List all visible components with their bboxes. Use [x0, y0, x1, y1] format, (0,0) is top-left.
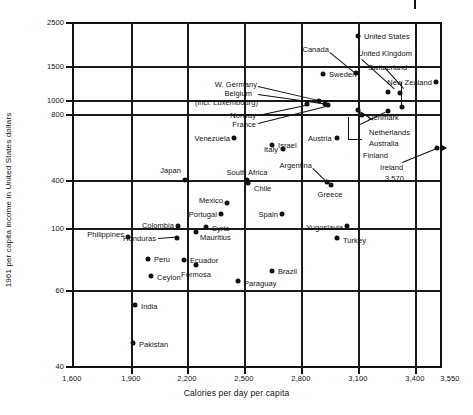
point-spain: [280, 212, 285, 217]
tick-y-800: [66, 114, 72, 116]
xtick-label-3100: 3,100: [348, 374, 367, 383]
point-new-zealand: [434, 80, 439, 85]
gridline-x-2800: [301, 22, 303, 368]
label-honduras: Honduras: [123, 234, 156, 243]
label-peru: Peru: [154, 255, 170, 264]
label-belgium-note: (incl. Luxembourg): [195, 98, 258, 107]
leader-finland: [349, 139, 362, 140]
label-netherlands: Netherlands: [369, 128, 410, 137]
label-mexico: Mexico: [199, 196, 223, 205]
label-norway: Norway: [230, 111, 256, 120]
point-greece: [329, 183, 334, 188]
label-pakistan: Pakistan: [139, 340, 168, 349]
tick-y-100: [66, 228, 72, 230]
ytick-label-1500: 1500: [38, 62, 64, 71]
label-israel: Israel: [278, 141, 297, 150]
label-finland: Finland: [363, 151, 388, 160]
label-switzerland: Switzerland: [368, 63, 407, 72]
label-australia: Australia: [369, 139, 399, 148]
label-denmark: Denmark: [368, 113, 399, 122]
xtick-label-3400: 3,400: [405, 374, 424, 383]
label-spain: Spain: [259, 210, 278, 219]
ytick-label-1000: 1000: [38, 96, 64, 105]
ytick-label-40: 40: [38, 362, 64, 371]
point-brazil: [270, 269, 275, 274]
label-colombia: Colombia: [142, 221, 174, 230]
label-ireland-value: 3,570: [385, 174, 404, 183]
label-syria: Syria: [212, 224, 229, 233]
label-united-kingdom: United Kingdom: [358, 49, 412, 58]
label-south-africa: South Africa: [226, 168, 267, 177]
label-italy: Italy: [264, 145, 278, 154]
ytick-label-100: 100: [38, 224, 64, 233]
tick-y-40: [66, 366, 72, 368]
point-switzerland: [386, 90, 391, 95]
ytick-label-2500: 2500: [38, 18, 64, 27]
gridline-x-3400: [415, 22, 417, 368]
point-austria: [335, 136, 340, 141]
ireland-offscale-arrow: [442, 145, 447, 151]
label-ireland: Ireland: [380, 163, 403, 172]
point-pakistan: [131, 341, 136, 346]
tick-y-1000: [66, 100, 72, 102]
point-portugal: [219, 212, 224, 217]
label-greece: Greece: [318, 190, 343, 199]
point-ecuador: [182, 258, 187, 263]
label-venezuela: Venezuela: [195, 134, 230, 143]
label-new-zealand: New Zealand: [387, 78, 432, 87]
point-mauritius: [194, 230, 199, 235]
point-venezuela: [232, 136, 237, 141]
xtick-label-1600: 1,600: [62, 374, 81, 383]
y-axis-title: 1961 per capita income in United States …: [4, 113, 13, 288]
point-syria: [204, 225, 209, 230]
plot-area: United States United Kingdom Switzerland…: [72, 22, 442, 368]
tick-y-1500: [66, 66, 72, 68]
point-chile: [246, 181, 251, 186]
label-paraguay: Paraguay: [244, 279, 277, 288]
label-ceylon: Ceylon: [157, 273, 181, 282]
point-japan: [183, 178, 188, 183]
label-united-states: United States: [364, 32, 410, 41]
ytick-label-60: 60: [38, 286, 64, 295]
ytick-label-800: 800: [38, 110, 64, 119]
point-mexico: [225, 201, 230, 206]
xtick-label-2200: 2,200: [177, 374, 196, 383]
point-colombia: [176, 224, 181, 229]
top-crop-mark: [414, 0, 416, 9]
gridline-x-1900: [131, 22, 133, 368]
label-france: France: [232, 120, 256, 129]
label-philippines: Philippines: [87, 230, 124, 239]
scatter-plot-figure: 1961 per capita income in United States …: [0, 0, 473, 415]
point-india: [133, 303, 138, 308]
label-belgium: Belgium: [225, 89, 252, 98]
tick-y-400: [66, 180, 72, 182]
plot-frame: [72, 22, 442, 368]
label-w-germany: W. Germany: [215, 80, 257, 89]
label-japan: Japan: [160, 166, 181, 175]
label-sweden: Sweden: [329, 70, 356, 79]
xtick-label-3550: 3,550: [440, 374, 459, 383]
point-yugoslavia: [345, 224, 350, 229]
label-yugoslavia: Yugoslavia: [306, 223, 343, 232]
tick-y-2500: [66, 22, 72, 24]
gridline-x-2500: [244, 22, 246, 368]
label-brazil: Brazil: [278, 267, 297, 276]
xtick-label-2500: 2,500: [234, 374, 253, 383]
gridline-x-2200: [187, 22, 189, 368]
gridline-y-100: [72, 228, 442, 230]
point-turkey: [335, 236, 340, 241]
label-ecuador: Ecuador: [190, 256, 218, 265]
label-canada: Canada: [302, 45, 329, 54]
tick-y-60: [66, 290, 72, 292]
point-sweden: [321, 72, 326, 77]
point-ceylon: [149, 274, 154, 279]
ytick-label-400: 400: [38, 176, 64, 185]
point-peru: [146, 257, 151, 262]
label-argentina: Argentina: [279, 161, 312, 170]
label-turkey: Turkey: [343, 236, 366, 245]
label-austria: Austria: [308, 134, 332, 143]
gridline-y-60: [72, 290, 442, 292]
x-axis-title: Calories per day per capita: [0, 388, 473, 398]
point-paraguay: [236, 279, 241, 284]
leader-finland-v: [348, 117, 349, 140]
